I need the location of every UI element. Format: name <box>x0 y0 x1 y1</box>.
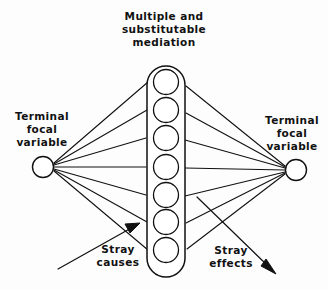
right-terminal-node-label: Terminal focal variable <box>256 114 328 153</box>
right-fan-line <box>187 174 285 249</box>
mediator-node <box>154 155 179 180</box>
mediator-node <box>154 210 179 235</box>
left-terminal-node <box>33 157 54 178</box>
right-fan-lines <box>185 86 285 249</box>
diagram-canvas: Multiple and substitutable mediation Ter… <box>0 0 328 290</box>
mediator-node <box>154 98 179 123</box>
mediator-node <box>154 238 179 263</box>
mediator-node <box>154 70 179 95</box>
mediator-node <box>154 183 179 208</box>
left-terminal-node-label: Terminal focal variable <box>6 110 78 149</box>
mediation-title-label: Multiple and substitutable mediation <box>104 10 224 49</box>
right-fan-line <box>185 172 285 196</box>
mediator-node <box>154 126 179 151</box>
left-fan-line <box>54 170 147 222</box>
stray-causes-label: Stray causes <box>88 243 148 269</box>
right-fan-line <box>185 168 285 170</box>
right-fan-line <box>186 173 285 223</box>
right-terminal-node <box>286 160 307 181</box>
stray-effects-label: Stray effects <box>201 244 261 270</box>
